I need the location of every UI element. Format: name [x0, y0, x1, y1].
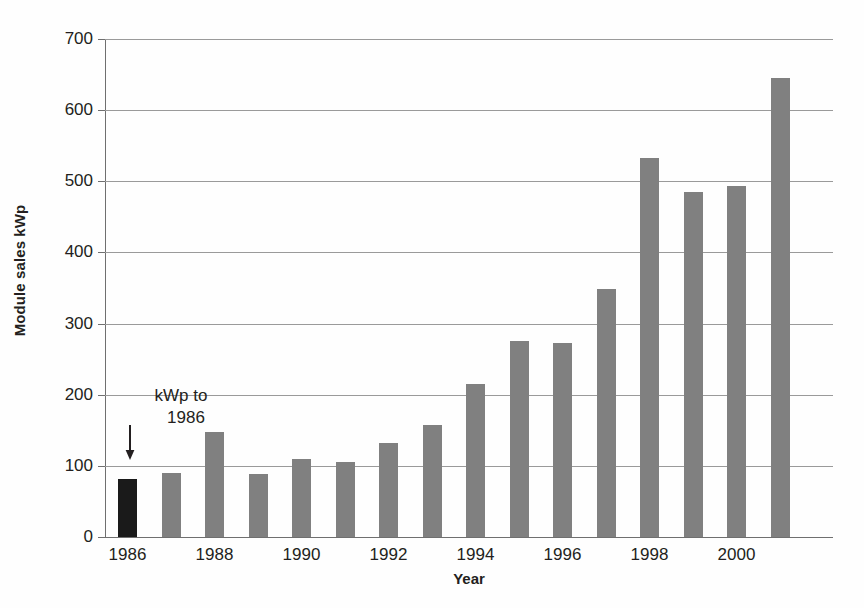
- bar: [466, 384, 485, 537]
- gridline: [105, 39, 833, 40]
- x-axis-title: Year: [105, 570, 833, 587]
- plot-area: 0100200300400500600700 19861988199019921…: [105, 39, 833, 537]
- x-tick-label: 1996: [544, 545, 582, 565]
- y-tick-mark: [98, 110, 105, 111]
- y-tick-mark: [98, 181, 105, 182]
- y-tick-label: 100: [65, 456, 93, 476]
- y-tick-label: 400: [65, 242, 93, 262]
- y-tick-mark: [98, 466, 105, 467]
- bar: [336, 462, 355, 537]
- bar: [379, 443, 398, 537]
- down-arrow-icon: [123, 425, 137, 461]
- x-tick-label: 1994: [457, 545, 495, 565]
- y-axis-title-text: Module sales kWp: [12, 204, 29, 336]
- bar: [205, 432, 224, 537]
- y-tick-mark: [98, 39, 105, 40]
- bar-chart-figure: Module sales kWp 0100200300400500600700 …: [0, 0, 864, 608]
- bar: [423, 425, 442, 537]
- bar: [162, 473, 181, 537]
- bar: [510, 341, 529, 537]
- bar: [684, 192, 703, 537]
- y-axis-line: [105, 39, 106, 537]
- y-tick-mark: [98, 324, 105, 325]
- y-tick-label: 0: [84, 527, 93, 547]
- x-tick-label: 1990: [283, 545, 321, 565]
- x-tick-label: 1986: [109, 545, 147, 565]
- gridline: [105, 537, 833, 538]
- bar: [553, 343, 572, 537]
- y-tick-label: 200: [65, 385, 93, 405]
- bar: [727, 186, 746, 537]
- y-tick-mark: [98, 252, 105, 253]
- bar: [292, 459, 311, 537]
- gridline: [105, 110, 833, 111]
- x-tick-label: 1988: [196, 545, 234, 565]
- x-tick-label: 2000: [718, 545, 756, 565]
- y-tick-mark: [98, 395, 105, 396]
- y-axis-title: Module sales kWp: [0, 0, 40, 540]
- bar: [597, 289, 616, 537]
- bar: [771, 78, 790, 537]
- y-tick-label: 500: [65, 171, 93, 191]
- x-tick-label: 1998: [631, 545, 669, 565]
- bar: [118, 479, 137, 537]
- y-tick-label: 600: [65, 100, 93, 120]
- y-tick-mark: [98, 537, 105, 538]
- x-tick-label: 1992: [370, 545, 408, 565]
- bar: [249, 474, 268, 537]
- gridline: [105, 181, 833, 182]
- y-tick-label: 700: [65, 29, 93, 49]
- y-tick-label: 300: [65, 314, 93, 334]
- bar: [640, 158, 659, 537]
- gridline: [105, 252, 833, 253]
- gridline: [105, 324, 833, 325]
